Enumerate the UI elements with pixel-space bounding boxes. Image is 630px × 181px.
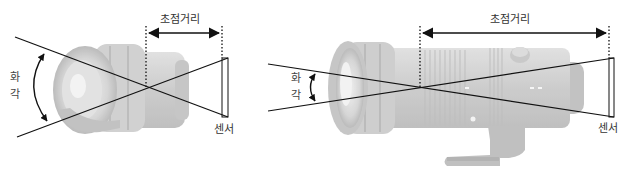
left-angle-of-view-label: 화 각 (8, 69, 22, 103)
wide-angle-lens-image (53, 44, 189, 134)
telephoto-lens-image (328, 41, 584, 166)
right-focal-length-label: 초점거리 (490, 14, 530, 25)
focal-length-diagram: 초점거리 화 각 센서 초점거리 화 각 센서 (0, 0, 630, 181)
diagram-canvas (0, 0, 630, 181)
left-angle-char-2: 각 (8, 86, 22, 103)
right-angle-char-1: 화 (289, 70, 303, 87)
left-sensor-label: 센서 (214, 124, 234, 135)
left-focal-length-label: 초점거리 (160, 14, 200, 25)
right-sensor-label: 센서 (598, 123, 618, 134)
right-angle-of-view-label: 화 각 (289, 70, 303, 104)
right-angle-char-2: 각 (289, 87, 303, 104)
left-angle-char-1: 화 (8, 69, 22, 86)
